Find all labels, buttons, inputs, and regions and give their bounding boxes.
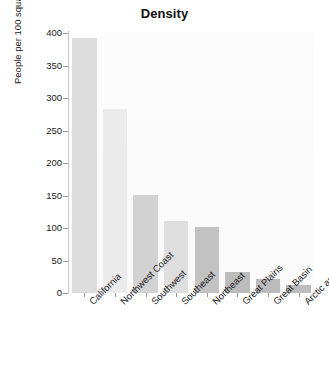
x-axis-label: Southwest: [149, 299, 157, 307]
x-axis-label: California: [87, 299, 95, 307]
y-tick-label: 50: [22, 256, 62, 266]
x-tick-mark: [207, 293, 208, 297]
y-tick-label: 400: [22, 28, 62, 38]
x-axis-label: Great Plains: [240, 299, 248, 307]
y-tick-label: 150: [22, 191, 62, 201]
y-tick-mark: [63, 98, 68, 99]
chart-title: Density: [0, 6, 329, 21]
bar: [103, 109, 128, 293]
y-tick-mark: [63, 261, 68, 262]
y-axis-title-text: People per 100 square miles (approx.): [12, 70, 23, 84]
y-tick-label: 100: [22, 223, 62, 233]
x-tick-mark: [115, 293, 116, 297]
y-tick-label: 300: [22, 93, 62, 103]
y-axis-title: People per 100 square miles (approx.): [12, 70, 23, 84]
x-tick-mark: [237, 293, 238, 297]
y-tick-mark: [63, 228, 68, 229]
y-tick-mark: [63, 163, 68, 164]
x-tick-mark: [268, 293, 269, 297]
y-tick-mark: [63, 66, 68, 67]
y-tick-label: 350: [22, 61, 62, 71]
y-tick-mark: [63, 293, 68, 294]
y-tick-label: 0: [22, 288, 62, 298]
x-tick-mark: [146, 293, 147, 297]
x-axis-label: Northwest Coast: [118, 299, 126, 307]
density-bar-chart: Density People per 100 square miles (app…: [0, 0, 329, 389]
bar: [72, 38, 97, 293]
x-tick-mark: [299, 293, 300, 297]
x-axis-label: Great Basin: [271, 299, 279, 307]
x-axis-label: Arctic and Sub-Arctic: [302, 299, 310, 307]
y-tick-mark: [63, 196, 68, 197]
y-tick-label: 250: [22, 126, 62, 136]
x-axis-label: Northeast: [210, 299, 218, 307]
plot-area: [69, 33, 314, 293]
y-tick-mark: [63, 33, 68, 34]
x-tick-mark: [84, 293, 85, 297]
x-axis-label: Southeast: [179, 299, 187, 307]
y-tick-mark: [63, 131, 68, 132]
y-tick-label: 200: [22, 158, 62, 168]
x-tick-mark: [176, 293, 177, 297]
